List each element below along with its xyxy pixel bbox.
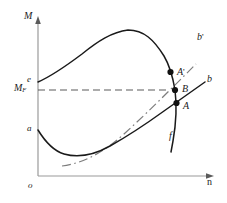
axes-group xyxy=(35,16,214,179)
marker-a xyxy=(173,100,179,106)
point-a-prime-mark: ' xyxy=(183,67,185,77)
tick-label-mf: MF xyxy=(14,83,26,94)
point-label-a: A xyxy=(183,101,189,111)
point-label-b: B xyxy=(182,84,188,94)
curve-label-f: f xyxy=(169,131,172,141)
y-axis-label: M xyxy=(24,11,32,21)
x-axis-label: n xyxy=(207,177,212,187)
plot-svg xyxy=(0,0,227,203)
lower-characteristic-curve xyxy=(38,82,205,156)
curve-label-b-prime: b' xyxy=(197,32,204,42)
y-axis-arrow xyxy=(35,16,41,24)
mf-subscript: F xyxy=(22,86,26,93)
figure-canvas: M n o e MF a A' B A b' b f xyxy=(0,0,227,203)
upper-characteristic-curve xyxy=(38,30,176,152)
origin-label: o xyxy=(28,181,33,190)
tick-label-e: e xyxy=(27,75,31,84)
point-label-a-prime: A' xyxy=(177,67,185,77)
tick-label-a: a xyxy=(27,124,32,133)
curve-label-b: b xyxy=(207,74,212,84)
marker-b xyxy=(172,87,178,93)
marker-a-prime xyxy=(167,69,173,75)
curve-b-prime-mark: ' xyxy=(202,32,204,42)
